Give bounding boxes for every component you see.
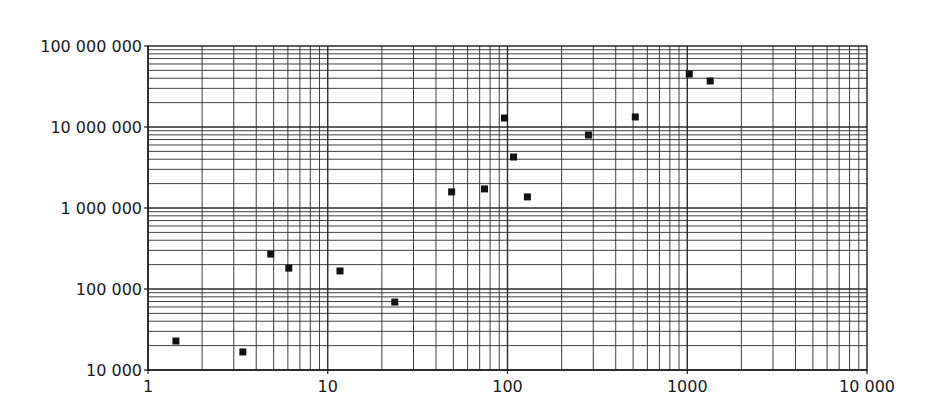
y-axis: 10 000100 0001 000 00010 000 000100 000 …: [40, 37, 148, 380]
data-point-marker: [585, 132, 592, 139]
data-point-marker: [632, 113, 639, 120]
y-tick-label: 100 000: [76, 280, 142, 299]
data-point-marker: [686, 71, 693, 78]
y-tick-label: 1 000 000: [61, 199, 142, 218]
y-tick-label: 100 000 000: [40, 37, 142, 56]
data-point-marker: [481, 185, 488, 192]
y-tick-label: 10 000 000: [50, 118, 142, 137]
x-tick-label: 1000: [667, 377, 708, 396]
data-point-marker: [337, 267, 344, 274]
data-point-marker: [239, 348, 246, 355]
x-tick-label: 100: [492, 377, 523, 396]
data-point-marker: [172, 338, 179, 345]
data-point-marker: [391, 299, 398, 306]
x-tick-label: 10 000: [839, 377, 895, 396]
y-tick-label: 10 000: [86, 361, 142, 380]
x-axis: 110100100010 000: [143, 370, 895, 396]
data-point-marker: [448, 188, 455, 195]
x-tick-label: 1: [143, 377, 153, 396]
data-point-marker: [707, 77, 714, 84]
data-point-marker: [285, 265, 292, 272]
data-point-marker: [510, 154, 517, 161]
data-points: [172, 71, 713, 356]
data-point-marker: [267, 251, 274, 258]
data-point-marker: [501, 115, 508, 122]
log-log-scatter-chart: 10 000100 0001 000 00010 000 000100 000 …: [0, 0, 934, 415]
x-tick-label: 10: [318, 377, 338, 396]
data-point-marker: [524, 193, 531, 200]
